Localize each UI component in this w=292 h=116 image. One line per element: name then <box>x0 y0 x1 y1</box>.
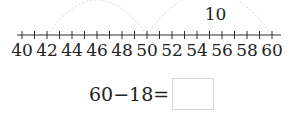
equation: 60−18= <box>89 78 214 110</box>
tick-label: 60 <box>261 40 283 60</box>
tick-label: 50 <box>136 40 158 60</box>
equation-text: 60−18= <box>89 83 169 105</box>
tick-label: 48 <box>111 40 133 60</box>
tick-label: 52 <box>161 40 183 60</box>
tick-label: 56 <box>211 40 233 60</box>
jump-label: 10 <box>205 4 227 24</box>
tick-label: 40 <box>11 40 33 60</box>
tick-label: 44 <box>61 40 83 60</box>
tick-label: 46 <box>86 40 108 60</box>
jump-arc <box>47 0 147 35</box>
tick-label: 54 <box>186 40 208 60</box>
tick-label: 42 <box>36 40 58 60</box>
number-line: 10 4042444648505254565860 <box>0 0 292 62</box>
tick-label: 58 <box>236 40 258 60</box>
answer-input-box[interactable] <box>172 78 214 110</box>
